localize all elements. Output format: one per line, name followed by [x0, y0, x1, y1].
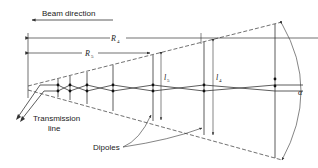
r5-symbol: R	[84, 49, 90, 58]
l4-subscript: 4	[219, 78, 222, 83]
dipole-4	[112, 65, 115, 111]
dipole-1	[57, 79, 60, 97]
r4-subscript: 4	[117, 39, 120, 44]
dimension-l4: l 4	[213, 42, 222, 135]
upper-envelope-line	[28, 22, 282, 86]
l5-subscript: 5	[167, 78, 170, 83]
dipole-5	[152, 55, 155, 121]
transmission-line-label-1: Transmission	[33, 114, 80, 123]
log-periodic-antenna-diagram: Beam direction R 4 R 5	[0, 0, 318, 168]
dimension-alpha: α	[282, 24, 303, 160]
dipole-2	[69, 76, 72, 100]
dipoles-label: Dipoles	[93, 143, 120, 152]
dipole-3	[86, 72, 89, 104]
r5-subscript: 5	[91, 54, 94, 59]
lower-envelope-line	[28, 90, 282, 160]
dipole-6	[203, 42, 206, 135]
alpha-symbol: α	[298, 88, 303, 97]
transmission-line-label-2: line	[48, 124, 61, 133]
beam-direction: Beam direction	[32, 9, 113, 20]
r4-symbol: R	[110, 34, 116, 43]
dimension-l5: l 5	[161, 55, 170, 120]
dimension-r5: R 5	[29, 49, 150, 59]
dipoles-group	[57, 24, 277, 158]
beam-direction-label: Beam direction	[42, 9, 95, 18]
